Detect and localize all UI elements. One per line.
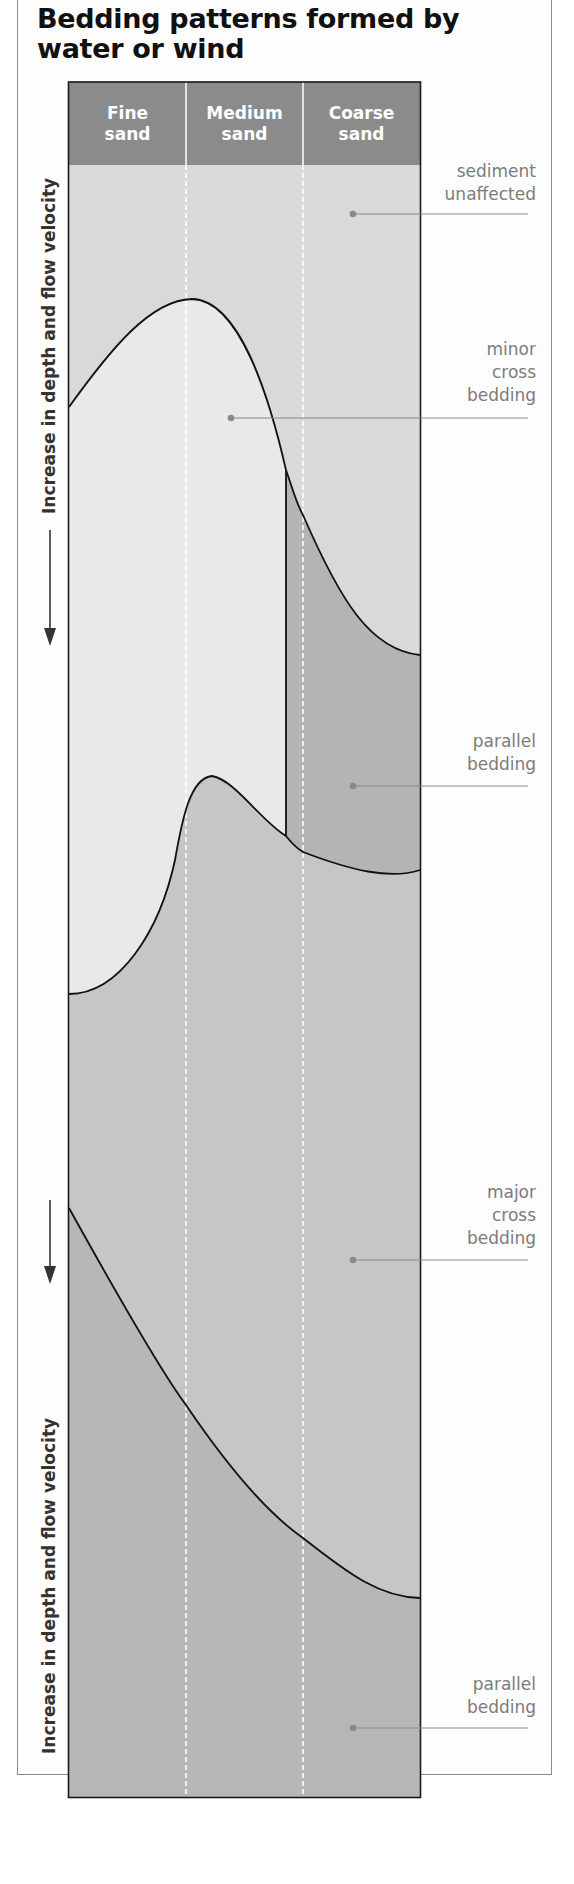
column-header-coarse-sand: Coarsesand [303,88,420,160]
label-parallel-bedding-upper: parallelbedding [467,730,536,776]
bedding-diagram [0,0,574,1884]
column-header-fine-sand: Finesand [69,88,186,160]
label-minor-cross-bedding: minorcrossbedding [467,338,536,407]
down-arrow-icon [44,530,56,646]
label-parallel-bedding-lower: parallelbedding [467,1673,536,1719]
axis-label-bottom: Increase in depth and flow velocity [39,1418,59,1754]
column-header-medium-sand: Mediumsand [186,88,303,160]
label-sediment-unaffected: sedimentunaffected [445,160,536,206]
label-major-cross-bedding: majorcrossbedding [467,1181,536,1250]
down-arrow-icon [44,1200,56,1284]
axis-label-top: Increase in depth and flow velocity [39,178,59,514]
